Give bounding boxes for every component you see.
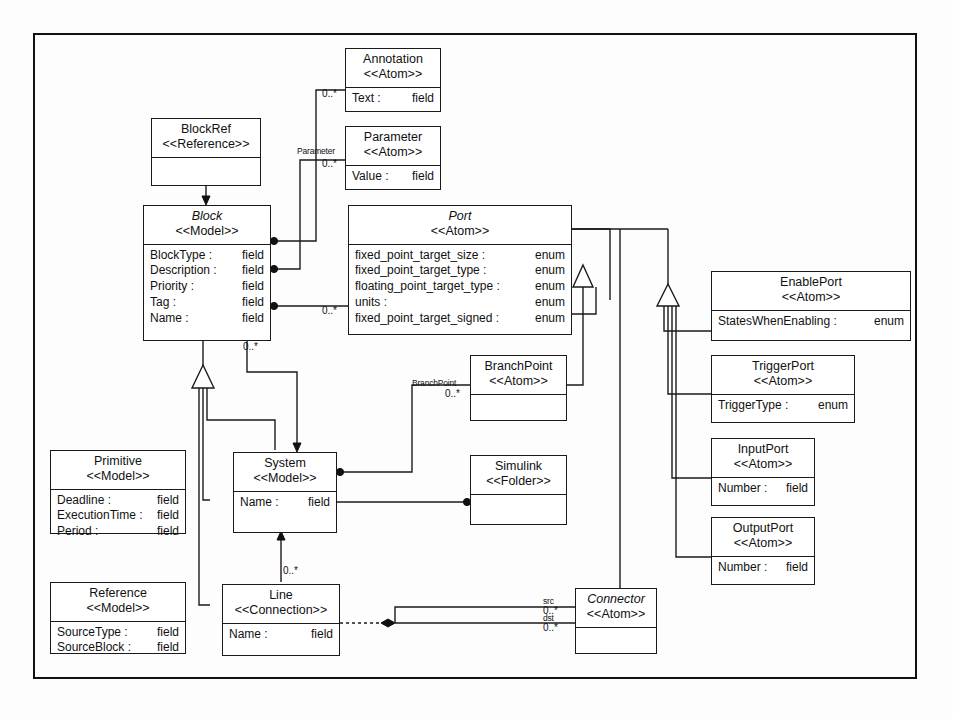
class-triggerport[interactable]: TriggerPort <<Atom>> TriggerType :enum (711, 355, 855, 423)
class-line-stereotype: <<Connection>> (225, 603, 337, 618)
class-block-header: Block <<Model>> (144, 206, 270, 244)
attribute-row: fixed_point_target_signed :enum (355, 311, 565, 327)
attribute-value: enum (535, 311, 565, 327)
class-blockref[interactable]: BlockRef <<Reference>> (151, 118, 261, 186)
class-enableport-stereotype: <<Atom>> (714, 290, 908, 305)
class-connector-attributes (576, 628, 656, 653)
attribute-value: enum (535, 248, 565, 264)
class-line-attributes: Name :field (223, 624, 339, 647)
attribute-key: Description : (150, 263, 225, 279)
attribute-value: field (412, 91, 434, 107)
class-blockref-attributes (152, 158, 260, 183)
attribute-value: field (157, 524, 179, 540)
class-parameter[interactable]: Parameter <<Atom>> Value :field (345, 126, 441, 190)
attribute-key: fixed_point_target_type : (355, 263, 494, 279)
class-simulink-attributes (471, 495, 566, 520)
uml-diagram-canvas: Block (composition arrow down) --> (0, 0, 953, 719)
attribute-row: Number :field (718, 481, 808, 497)
attribute-row: Text :field (352, 91, 434, 107)
attribute-value: field (157, 640, 179, 656)
attribute-value: enum (874, 314, 904, 330)
class-reference-header: Reference <<Model>> (51, 583, 185, 621)
class-connector-name: Connector (578, 592, 654, 607)
attribute-row: floating_point_target_type :enum (355, 279, 565, 295)
class-reference-attributes: SourceType :field SourceBlock :field (51, 622, 185, 661)
class-inputport[interactable]: InputPort <<Atom>> Number :field (711, 438, 815, 506)
class-inputport-header: InputPort <<Atom>> (712, 439, 814, 477)
class-parameter-attributes: Value :field (346, 166, 440, 189)
multiplicity-block-system: 0..* (243, 341, 258, 352)
class-port-header: Port <<Atom>> (349, 206, 571, 244)
attribute-key: Tag : (150, 295, 184, 311)
class-annotation[interactable]: Annotation <<Atom>> Text :field (345, 48, 441, 112)
attribute-key: Number : (718, 481, 775, 497)
class-simulink-stereotype: <<Folder>> (473, 474, 564, 489)
attribute-value: enum (535, 279, 565, 295)
class-enableport-attributes: StatesWhenEnabling :enum (712, 311, 910, 334)
class-parameter-name: Parameter (348, 130, 438, 145)
attribute-key: StatesWhenEnabling : (718, 314, 845, 330)
attribute-key: units : (355, 295, 395, 311)
attribute-row: Name :field (240, 495, 330, 511)
attribute-value: field (786, 481, 808, 497)
class-outputport[interactable]: OutputPort <<Atom>> Number :field (711, 517, 815, 585)
class-enableport[interactable]: EnablePort <<Atom>> StatesWhenEnabling :… (711, 271, 911, 341)
attribute-key: fixed_point_target_signed : (355, 311, 507, 327)
class-branchpoint[interactable]: BranchPoint <<Atom>> (470, 355, 567, 421)
class-block[interactable]: Block <<Model>> BlockType :field Descrip… (143, 205, 271, 341)
class-primitive[interactable]: Primitive <<Model>> Deadline :field Exec… (50, 450, 186, 534)
class-enableport-header: EnablePort <<Atom>> (712, 272, 910, 310)
class-branchpoint-stereotype: <<Atom>> (473, 374, 564, 389)
class-annotation-attributes: Text :field (346, 88, 440, 111)
class-connector[interactable]: Connector <<Atom>> (575, 588, 657, 654)
multiplicity-connector-dst: 0..* (543, 622, 558, 633)
attribute-row: Name :field (229, 627, 333, 643)
attribute-key: SourceType : (57, 625, 136, 641)
class-system[interactable]: System <<Model>> Name :field (233, 452, 337, 533)
class-block-stereotype: <<Model>> (146, 224, 268, 239)
class-blockref-name: BlockRef (154, 122, 258, 137)
multiplicity-annotation: 0..* (322, 88, 337, 99)
attribute-row: fixed_point_target_size :enum (355, 248, 565, 264)
attribute-key: Deadline : (57, 493, 119, 509)
attribute-row: Deadline :field (57, 493, 179, 509)
edge-label-branchpoint: BranchPoint (412, 378, 456, 388)
class-inputport-attributes: Number :field (712, 478, 814, 501)
attribute-row: Name :field (150, 311, 264, 327)
class-blockref-header: BlockRef <<Reference>> (152, 119, 260, 157)
class-triggerport-name: TriggerPort (714, 359, 852, 374)
class-reference[interactable]: Reference <<Model>> SourceType :field So… (50, 582, 186, 654)
class-annotation-stereotype: <<Atom>> (348, 67, 438, 82)
class-system-name: System (236, 456, 334, 471)
attribute-key: Value : (352, 169, 396, 185)
attribute-value: field (242, 248, 264, 264)
multiplicity-connector-src: 0..* (543, 605, 558, 616)
attribute-key: Number : (718, 560, 775, 576)
class-line[interactable]: Line <<Connection>> Name :field (222, 584, 340, 656)
class-simulink[interactable]: Simulink <<Folder>> (470, 455, 567, 525)
attribute-value: field (242, 279, 264, 295)
class-block-attributes: BlockType :field Description :field Prio… (144, 245, 270, 331)
class-simulink-header: Simulink <<Folder>> (471, 456, 566, 494)
multiplicity-port: 0..* (322, 305, 337, 316)
class-port[interactable]: Port <<Atom>> fixed_point_target_size :e… (348, 205, 572, 335)
class-system-attributes: Name :field (234, 492, 336, 515)
class-parameter-header: Parameter <<Atom>> (346, 127, 440, 165)
attribute-value: field (157, 508, 179, 524)
attribute-value: field (311, 627, 333, 643)
attribute-value: field (786, 560, 808, 576)
class-parameter-stereotype: <<Atom>> (348, 145, 438, 160)
attribute-key: Period : (57, 524, 106, 540)
attribute-row: units :enum (355, 295, 565, 311)
attribute-key: floating_point_target_type : (355, 279, 508, 295)
class-reference-stereotype: <<Model>> (53, 601, 183, 616)
attribute-row: Period :field (57, 524, 179, 540)
class-line-name: Line (225, 588, 337, 603)
class-port-attributes: fixed_point_target_size :enum fixed_poin… (349, 245, 571, 331)
class-triggerport-header: TriggerPort <<Atom>> (712, 356, 854, 394)
class-outputport-stereotype: <<Atom>> (714, 536, 812, 551)
class-inputport-stereotype: <<Atom>> (714, 457, 812, 472)
attribute-key: Name : (229, 627, 276, 643)
attribute-value: field (308, 495, 330, 511)
class-system-stereotype: <<Model>> (236, 471, 334, 486)
